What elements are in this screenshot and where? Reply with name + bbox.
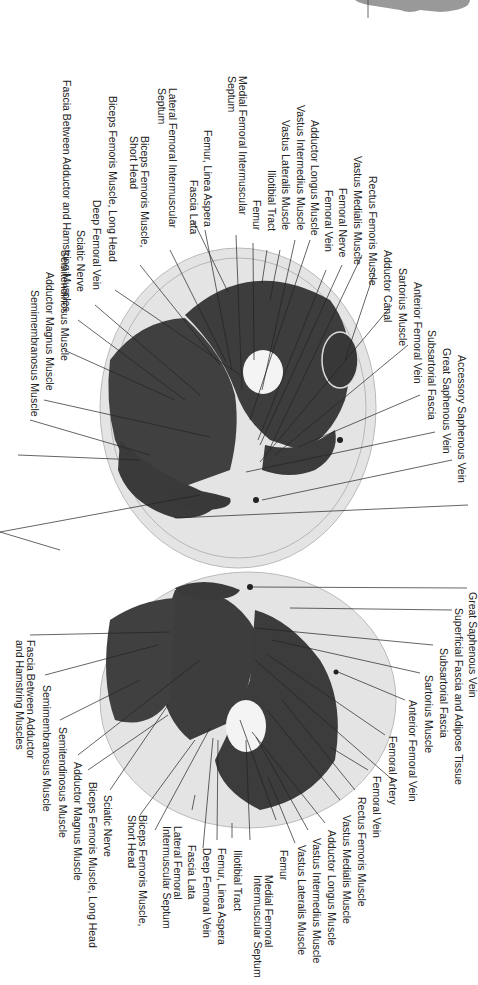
label-adductor-longus: Adductor Longus Muscle — [309, 120, 320, 236]
label-adductor-canal: Adductor Canal — [382, 250, 393, 322]
femur-bone — [243, 350, 283, 394]
label-femoral-nerve: Femoral Nerve — [337, 188, 348, 257]
label-rectus-femoris: Rectus Femoris Muscle — [367, 176, 378, 286]
label-vastus-intermedius-lower: Vastus Intermedius Muscle — [311, 838, 322, 963]
label-vastus-lateralis: Vastus Lateralis Muscle — [280, 120, 291, 230]
label-iliotibial-tract-lower: Iliotibial Tract — [232, 850, 243, 911]
label-sartorius-muscle-lower: Sartorius Muscle — [423, 675, 434, 753]
label-biceps-short-head-lower: Biceps Femoris Muscle, Short Head — [126, 815, 148, 926]
label-femur-linea-aspera: Femur, Linea Aspera — [202, 130, 213, 227]
label-accessory-saphenous-vein: Accessory Saphenous Vein — [456, 355, 467, 483]
label-femoral-vein-lower: Femoral Vein — [371, 776, 382, 838]
label-iliotibial-tract: Iliotibial Tract — [266, 170, 277, 231]
label-femur-linea-aspera-lower: Femur, Linea Aspera — [216, 848, 227, 945]
label-fascia-adductor-hamstring: Fascia Between Adductor and Hamstring Mu… — [61, 80, 72, 312]
label-semimembranosus-muscle: Semimembranosus Muscle — [29, 290, 40, 417]
label-vastus-medialis-lower: Vastus Medialis Muscle — [341, 815, 352, 924]
label-lateral-femoral-intermuscular-septum: Lateral Femoral Intermuscular Septum — [156, 88, 178, 228]
label-biceps-long-head-lower: Biceps Femoris Muscle, Long Head — [87, 782, 98, 948]
label-vastus-intermedius: Vastus Intermedius Muscle — [295, 105, 306, 230]
label-adductor-magnus-lower: Adductor Magnus Muscle — [72, 762, 83, 880]
label-femur-lower: Femur — [278, 850, 289, 880]
label-semimembranosus-lower: Semimembranosus Muscle — [41, 685, 52, 812]
label-fascia-lata-lower: Fascia Lata — [186, 845, 197, 899]
label-biceps-femoris-long-head: Biceps Femoris Muscle, Long Head — [107, 96, 118, 262]
label-subsartorial-fascia-lower: Subsartorial Fascia — [438, 648, 449, 738]
label-deep-femoral-vein: Deep Femoral Vein — [91, 200, 102, 290]
label-medial-femoral-intermuscular-septum: Medial Femoral Intermuscular Septum — [226, 76, 248, 215]
label-deep-femoral-vein-lower: Deep Femoral Vein — [201, 848, 212, 938]
anatomy-figure: Medial Femoral Intermuscular Septum Femu… — [0, 0, 478, 985]
label-fascia-adductor-hamstring-lower: Fascia Between Adductor and Hamstring Mu… — [14, 640, 36, 759]
upper-thigh-section — [100, 248, 376, 568]
cropped-image-fragment — [355, 0, 470, 12]
label-biceps-femoris-short-head: Biceps Femoris Muscle, Short Head — [128, 136, 150, 247]
label-sciatic-nerve-lower: Sciatic Nerve — [102, 795, 113, 857]
label-sciatic-nerve: Sciatic Nerve — [75, 230, 86, 292]
label-medial-femoral-intermuscular-septum-lower: Medial Femoral Intermuscular Septum — [252, 875, 274, 978]
label-great-saphenous-vein: Great Saphenous Vein — [441, 348, 452, 454]
label-great-saphenous-vein-lower: Great Saphenous Vein — [467, 592, 478, 698]
label-vastus-lateralis-lower: Vastus Lateralis Muscle — [296, 845, 307, 955]
label-semitendinosus-lower: Semitendinosus Muscle — [57, 727, 68, 838]
label-subsartorial-fascia: Subsartorial Fascia — [426, 330, 437, 420]
label-femur: Femur — [251, 200, 262, 230]
label-anterior-femoral-vein: Anterior Femoral Vein — [412, 282, 423, 384]
label-fascia-lata: Fascia Lata — [188, 180, 199, 234]
label-adductor-magnus-muscle: Adductor Magnus Muscle — [44, 272, 55, 390]
label-femoral-artery: Femoral Artery — [387, 736, 398, 805]
label-superficial-fascia-adipose: Superficial Fascia and Adipose Tissue — [453, 608, 464, 785]
label-vastus-medialis: Vastus Medialis Muscle — [352, 156, 363, 265]
label-lateral-femoral-intermuscular-septum-lower: Lateral Femoral Intermuscular Septum — [161, 826, 183, 929]
label-sartorius-muscle: Sartorius Muscle — [397, 268, 408, 346]
label-anterior-femoral-vein-lower: Anterior Femoral Vein — [407, 700, 418, 802]
label-femoral-vein: Femoral Vein — [323, 190, 334, 252]
label-rectus-femoris-lower: Rectus Femoris Muscle — [356, 797, 367, 907]
label-adductor-longus-lower: Adductor Longus Muscle — [326, 830, 337, 946]
